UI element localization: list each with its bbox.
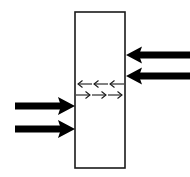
thick-arrow-right-side-lower <box>126 68 190 85</box>
thick-arrow-left-side-upper <box>15 97 75 115</box>
diagram-canvas <box>0 0 190 177</box>
thick-arrow-left-side-lower <box>15 120 75 138</box>
thick-arrow-right-side-upper <box>126 47 190 64</box>
slab-fill <box>75 12 125 168</box>
slab-arrow-diagram <box>0 0 190 177</box>
